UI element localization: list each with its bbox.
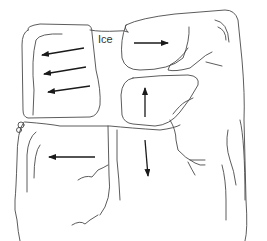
arrow-left-icon xyxy=(48,86,90,92)
middle-right-block-outline xyxy=(121,75,198,126)
middle-right-crack xyxy=(173,98,193,114)
lower-left-crack-1 xyxy=(78,165,108,180)
upper-right-curve-1 xyxy=(215,20,229,42)
lower-left-crack-2 xyxy=(72,215,98,225)
ice-channel-top xyxy=(90,30,128,32)
arrow-left-icon xyxy=(42,48,84,55)
lower-left-block-outline xyxy=(15,122,24,241)
arrow-down-icon xyxy=(145,140,148,176)
upper-right-curve-2 xyxy=(218,27,226,40)
upper-right-inner-edge xyxy=(122,25,190,70)
upper-right-crack-2 xyxy=(206,62,222,66)
lower-left-inner-line-2 xyxy=(34,145,40,178)
ice-label: Ice xyxy=(98,33,113,45)
ice-diagram: Ice xyxy=(0,0,267,241)
channel-vertical-left xyxy=(100,126,110,215)
lower-right-line-2 xyxy=(222,165,226,220)
lower-right-crack-2 xyxy=(188,162,195,175)
upper-left-inner-line xyxy=(33,34,62,115)
upper-right-block-outline xyxy=(125,10,246,241)
arrow-left-icon xyxy=(44,67,86,74)
upper-right-crack-1 xyxy=(168,48,212,71)
channel-vertical-right xyxy=(117,130,120,200)
bubble-icon xyxy=(17,128,22,133)
lower-right-line-1 xyxy=(227,130,236,185)
